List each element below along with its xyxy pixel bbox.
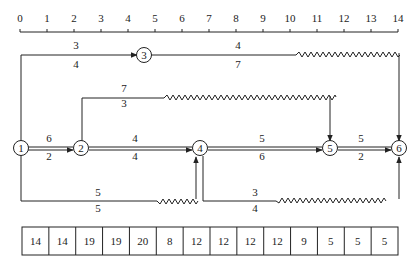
resource-cell: 9 [301, 235, 307, 247]
activity-1-4-duration: 5 [95, 202, 101, 214]
time-scaled-network-diagram: 01234567891011121314 3 4 4 7 7 3 6 2 4 4 [0, 0, 420, 269]
activity-1-2-resource: 6 [46, 132, 52, 144]
time-tick-label: 6 [179, 12, 185, 24]
resource-cell: 12 [218, 235, 229, 247]
activity-2-5: 7 3 [82, 82, 336, 141]
node-3: 3 [137, 48, 152, 63]
time-tick-label: 1 [44, 12, 50, 24]
time-tick-label: 7 [206, 12, 212, 24]
activity-1-2: 6 2 [28, 132, 73, 162]
activity-1-4: 5 5 [21, 155, 198, 214]
svg-text:3: 3 [141, 49, 147, 61]
time-tick-label: 8 [233, 12, 239, 24]
resource-cell: 14 [30, 235, 42, 247]
svg-text:4: 4 [197, 142, 203, 154]
activity-1-3: 3 4 [21, 39, 137, 141]
activity-3-6-resource: 4 [235, 39, 241, 51]
activity-2-4-duration: 4 [132, 150, 138, 162]
svg-text:1: 1 [18, 142, 24, 154]
activity-4-5-resource: 5 [259, 132, 265, 144]
resource-cell: 5 [328, 235, 334, 247]
activity-2-4-resource: 4 [132, 132, 138, 144]
activity-1-4-resource: 5 [95, 186, 101, 198]
activity-3-6: 4 7 [151, 39, 400, 141]
activity-1-3-resource: 3 [73, 39, 79, 51]
svg-text:2: 2 [78, 142, 84, 154]
time-tick-label: 11 [312, 12, 323, 24]
activity-2-4: 4 4 [89, 132, 192, 162]
free-float-wavy-line [296, 52, 400, 57]
activity-4-6-duration: 4 [252, 202, 258, 214]
free-float-wavy-line [276, 198, 386, 203]
time-tick-label: 5 [152, 12, 158, 24]
time-tick-label: 9 [260, 12, 266, 24]
activity-5-6: 5 2 [338, 132, 391, 162]
time-tick-label: 14 [393, 12, 405, 24]
resource-cell: 19 [111, 235, 123, 247]
node-4: 4 [193, 141, 208, 156]
activity-4-6-resource: 3 [252, 186, 258, 198]
activity-1-2-duration: 2 [46, 150, 52, 162]
activity-2-5-resource: 7 [121, 82, 127, 94]
activity-5-6-duration: 2 [358, 150, 364, 162]
resource-cell: 12 [191, 235, 202, 247]
node-5: 5 [323, 141, 338, 156]
time-tick-label: 2 [71, 12, 77, 24]
time-tick-label: 4 [125, 12, 131, 24]
resource-cell: 12 [272, 235, 283, 247]
resource-cell: 5 [382, 235, 388, 247]
resource-cell: 19 [84, 235, 96, 247]
svg-text:5: 5 [327, 142, 333, 154]
resource-cell: 8 [167, 235, 173, 247]
time-tick-label: 10 [285, 12, 297, 24]
time-tick-label: 13 [366, 12, 378, 24]
activity-3-6-duration: 7 [235, 58, 241, 70]
svg-text:6: 6 [396, 142, 402, 154]
resource-table: 14141919208121212129555 [22, 227, 398, 255]
node-1: 1 [14, 141, 29, 156]
time-tick-label: 3 [98, 12, 104, 24]
resource-cell: 5 [355, 235, 361, 247]
resource-cell: 20 [137, 235, 149, 247]
activity-2-5-duration: 3 [121, 97, 127, 109]
free-float-wavy-line [157, 199, 198, 204]
node-6: 6 [392, 141, 407, 156]
resource-cell: 14 [57, 235, 69, 247]
free-float-wavy-line [164, 95, 336, 100]
activity-4-5: 5 6 [208, 132, 322, 162]
time-scale: 01234567891011121314 [17, 12, 404, 32]
time-tick-label: 12 [339, 12, 350, 24]
activity-4-6: 3 4 [203, 156, 399, 214]
activity-1-3-duration: 4 [73, 58, 79, 70]
node-2: 2 [74, 141, 89, 156]
resource-cell: 12 [245, 235, 256, 247]
activity-4-5-duration: 6 [259, 150, 265, 162]
time-tick-label: 0 [17, 12, 23, 24]
activity-5-6-resource: 5 [358, 132, 364, 144]
